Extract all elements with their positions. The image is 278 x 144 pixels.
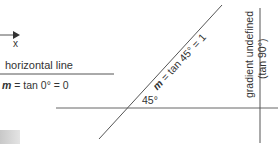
angle-label-45: 45° <box>142 94 158 106</box>
m-symbol: m <box>2 79 11 91</box>
vertical-tan-label: (tan 90°) <box>256 39 268 79</box>
horizontal-line-title: horizontal line <box>5 59 73 71</box>
gradient-diagram: x horizontal line m = tan 0° = 0 45° m =… <box>0 0 278 144</box>
horizontal-gradient-equation: m = tan 0° = 0 <box>2 79 69 91</box>
x-axis-label: x <box>13 38 18 49</box>
vertical-gradient-label: gradient undefined <box>243 11 255 98</box>
gray-block <box>0 130 20 144</box>
horizontal-equation-text: = tan 0° = 0 <box>11 79 68 91</box>
diagram-lines <box>0 0 278 144</box>
